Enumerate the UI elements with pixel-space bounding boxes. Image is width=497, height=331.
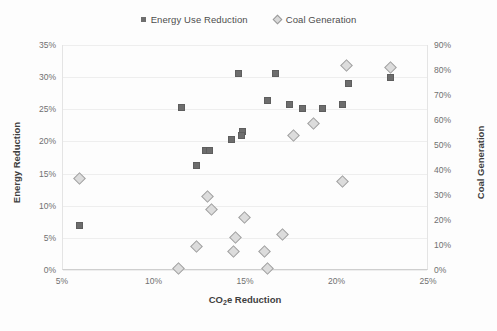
y-axis-right-tick-label: 30%: [434, 190, 451, 200]
data-point-diamond[interactable]: [229, 231, 242, 244]
data-point-square[interactable]: [206, 147, 213, 154]
y-axis-left-tick-label: 20%: [39, 136, 56, 146]
data-point-square[interactable]: [345, 80, 352, 87]
square-marker-icon: [141, 17, 146, 22]
y-axis-left-tick-label: 15%: [39, 169, 56, 179]
data-point-square[interactable]: [193, 162, 200, 169]
data-point-square[interactable]: [339, 101, 346, 108]
y-axis-right-ticks: 0%10%20%30%40%50%60%70%80%90%: [434, 45, 468, 270]
data-point-square[interactable]: [272, 70, 279, 77]
y-axis-right-tick-label: 40%: [434, 165, 451, 175]
y-axis-left-tick-label: 25%: [39, 104, 56, 114]
y-axis-right-tick-label: 50%: [434, 140, 451, 150]
data-point-diamond[interactable]: [337, 175, 350, 188]
data-point-diamond[interactable]: [287, 129, 300, 142]
x-axis-ticks: 5%10%15%20%25%: [62, 274, 428, 288]
data-point-square[interactable]: [76, 222, 83, 229]
x-axis-tick-label: 15%: [236, 276, 253, 286]
x-axis-title: CO2e Reduction: [62, 294, 428, 305]
y-axis-left-tick-label: 10%: [39, 201, 56, 211]
x-axis-tick-label: 20%: [328, 276, 345, 286]
data-point-square[interactable]: [319, 105, 326, 112]
y-axis-left-tick-label: 30%: [39, 72, 56, 82]
x-axis-title-pre: CO: [209, 294, 223, 305]
x-axis-tick-label: 5%: [56, 276, 68, 286]
data-point-square[interactable]: [286, 101, 293, 108]
y-axis-right-tick-label: 80%: [434, 65, 451, 75]
data-point-square[interactable]: [387, 74, 394, 81]
data-point-diamond[interactable]: [205, 203, 218, 216]
legend-item-energy-use-reduction[interactable]: Energy Use Reduction: [141, 14, 248, 25]
x-axis-title-subscript: 2: [223, 299, 227, 306]
x-axis-tick-label: 25%: [419, 276, 436, 286]
data-point-square[interactable]: [235, 70, 242, 77]
legend-label-coal-generation: Coal Generation: [286, 14, 357, 25]
data-point-diamond[interactable]: [73, 172, 86, 185]
y-axis-right-tick-label: 90%: [434, 40, 451, 50]
y-axis-left-title: Energy Reduction: [11, 103, 22, 223]
data-point-diamond[interactable]: [307, 117, 320, 130]
y-axis-right-tick-label: 10%: [434, 240, 451, 250]
data-point-diamond[interactable]: [190, 240, 203, 253]
data-markers: [63, 45, 427, 269]
y-axis-left-tick-label: 35%: [39, 40, 56, 50]
data-point-diamond[interactable]: [258, 245, 271, 258]
y-axis-right-title: Coal Generation: [475, 103, 486, 223]
y-axis-left-ticks: 0%5%10%15%20%25%30%35%: [28, 45, 56, 270]
data-point-diamond[interactable]: [340, 59, 353, 72]
x-axis-tick-label: 10%: [145, 276, 162, 286]
y-axis-right-tick-label: 20%: [434, 215, 451, 225]
y-axis-right-tick-label: 70%: [434, 90, 451, 100]
data-point-square[interactable]: [299, 105, 306, 112]
chart-legend: Energy Use Reduction Coal Generation: [0, 14, 497, 25]
legend-label-energy-use-reduction: Energy Use Reduction: [151, 14, 248, 25]
legend-item-coal-generation[interactable]: Coal Generation: [274, 14, 357, 25]
data-point-diamond[interactable]: [238, 211, 251, 224]
data-point-square[interactable]: [178, 104, 185, 111]
y-axis-left-tick-label: 5%: [44, 233, 56, 243]
data-point-square[interactable]: [228, 136, 235, 143]
y-axis-right-tick-label: 60%: [434, 115, 451, 125]
x-axis-title-post: e Reduction: [227, 294, 281, 305]
data-point-square[interactable]: [238, 132, 245, 139]
y-axis-left-tick-label: 0%: [44, 265, 56, 275]
data-point-diamond[interactable]: [201, 190, 214, 203]
gridline: [63, 270, 427, 271]
plot-area: [62, 45, 428, 270]
y-axis-right-tick-label: 0%: [434, 265, 446, 275]
data-point-diamond[interactable]: [227, 245, 240, 258]
scatter-chart: Energy Use Reduction Coal Generation 0%5…: [0, 0, 497, 331]
diamond-marker-icon: [272, 15, 282, 25]
data-point-diamond[interactable]: [276, 228, 289, 241]
data-point-square[interactable]: [264, 97, 271, 104]
data-point-diamond[interactable]: [384, 61, 397, 74]
